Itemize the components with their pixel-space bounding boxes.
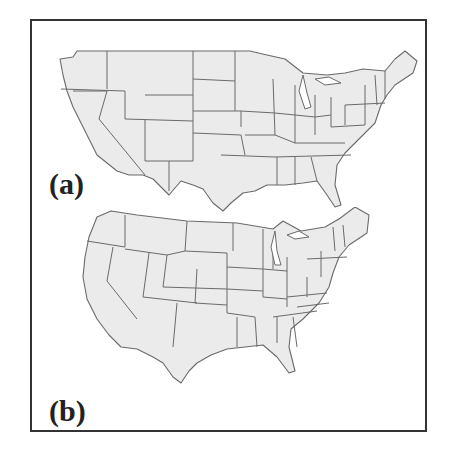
figure-frame: (a) (b) (30, 19, 427, 432)
map-panel-a (45, 35, 427, 215)
panel-label-b: (b) (49, 396, 86, 426)
map-panel-b (77, 207, 397, 397)
us-map-b (77, 207, 397, 397)
panel-label-a: (a) (49, 169, 84, 199)
us-map-a (45, 35, 427, 215)
